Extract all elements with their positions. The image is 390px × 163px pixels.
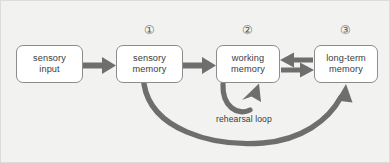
connector-sensory-to-working [183, 57, 216, 74]
node-long-term-memory[interactable]: long-term memory [314, 45, 378, 83]
connector-input-to-sensory [83, 57, 116, 74]
node-sensory-input[interactable]: sensory input [16, 45, 83, 83]
connector-working-to-longterm [281, 63, 314, 78]
node-sensory-memory[interactable]: sensory memory [116, 45, 183, 83]
node-working-memory-line1: working [232, 53, 264, 64]
node-long-term-memory-line2: memory [329, 64, 363, 75]
step-marker-3: ③ [338, 22, 353, 37]
node-working-memory-line2: memory [231, 64, 265, 75]
rehearsal-loop-label: rehearsal loop [216, 114, 272, 124]
node-sensory-memory-line2: memory [133, 64, 167, 75]
connector-rehearsal-loop [223, 84, 261, 112]
node-long-term-memory-line1: long-term [326, 53, 366, 64]
connector-longterm-to-working [280, 53, 313, 68]
node-sensory-input-line2: input [39, 64, 59, 75]
node-sensory-memory-line1: sensory [133, 53, 166, 64]
node-working-memory[interactable]: working memory [216, 45, 280, 83]
node-sensory-input-line1: sensory [33, 53, 66, 64]
step-marker-1: ① [142, 22, 157, 37]
step-marker-2: ② [240, 22, 255, 37]
memory-model-diagram: sensory input sensory memory working mem… [0, 0, 390, 163]
